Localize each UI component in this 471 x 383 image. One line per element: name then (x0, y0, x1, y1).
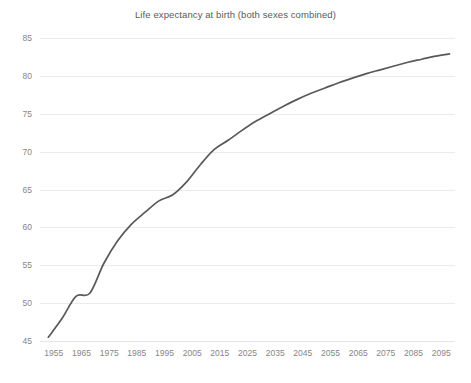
life-expectancy-line (48, 54, 449, 337)
x-tick-label-2055: 2055 (321, 348, 340, 358)
y-tick-label-80: 80 (23, 71, 32, 81)
x-tick-label-2095: 2095 (432, 348, 451, 358)
y-tick-label-75: 75 (23, 109, 32, 119)
y-tick-label-45: 45 (23, 336, 32, 346)
x-tick-label-1975: 1975 (100, 348, 119, 358)
chart-screenshot: Life expectancy at birth (both sexes com… (0, 0, 471, 383)
line-series-layer (40, 38, 455, 341)
y-tick-label-55: 55 (23, 260, 32, 270)
x-tick-label-1955: 1955 (44, 348, 63, 358)
x-tick-label-2075: 2075 (376, 348, 395, 358)
y-tick-label-85: 85 (23, 33, 32, 43)
x-tick-label-1995: 1995 (155, 348, 174, 358)
y-tick-label-70: 70 (23, 147, 32, 157)
x-tick-label-2015: 2015 (210, 348, 229, 358)
gridline-45 (40, 341, 455, 342)
y-axis-tick-labels: 858075706560555045 (0, 38, 36, 341)
x-tick-label-1965: 1965 (72, 348, 91, 358)
x-tick-label-2045: 2045 (293, 348, 312, 358)
y-tick-label-60: 60 (23, 222, 32, 232)
x-tick-label-2005: 2005 (183, 348, 202, 358)
x-tick-label-2035: 2035 (266, 348, 285, 358)
x-tick-label-1985: 1985 (127, 348, 146, 358)
y-tick-label-50: 50 (23, 298, 32, 308)
x-tick-label-2025: 2025 (238, 348, 257, 358)
y-tick-label-65: 65 (23, 185, 32, 195)
x-tick-label-2085: 2085 (404, 348, 423, 358)
x-tick-label-2065: 2065 (349, 348, 368, 358)
x-axis-tick-labels: 1955196519751985199520052015202520352045… (0, 348, 471, 362)
chart-title: Life expectancy at birth (both sexes com… (0, 9, 471, 20)
plot-area (40, 38, 455, 341)
